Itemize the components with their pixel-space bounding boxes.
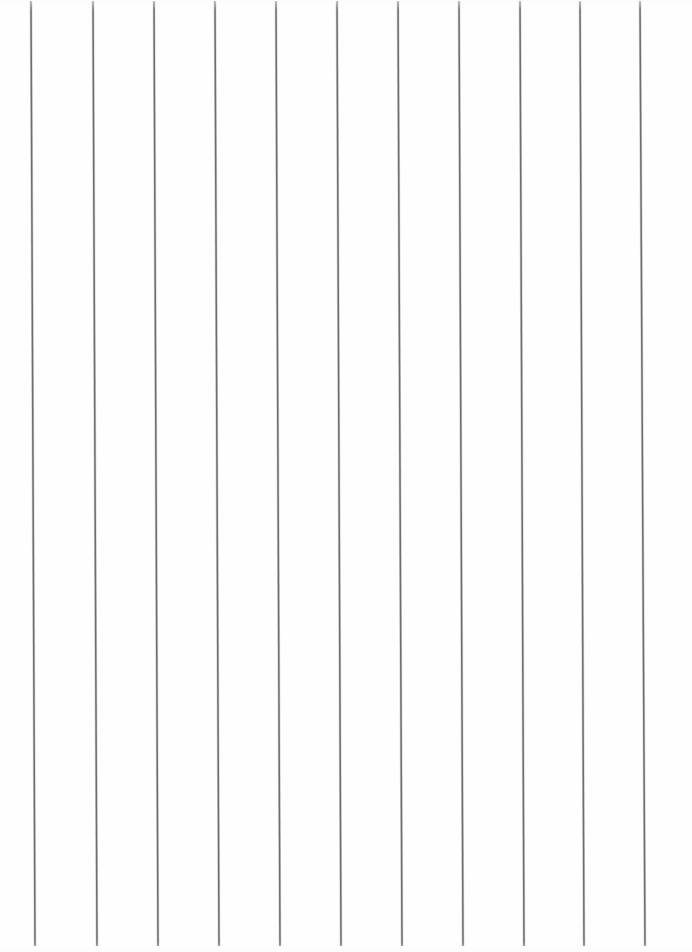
rule-line: [520, 1, 524, 946]
rule-line: [640, 1, 645, 946]
page-canvas: [0, 0, 692, 952]
vertical-ruling-layer: [0, 0, 692, 952]
rule-line: [580, 1, 584, 946]
